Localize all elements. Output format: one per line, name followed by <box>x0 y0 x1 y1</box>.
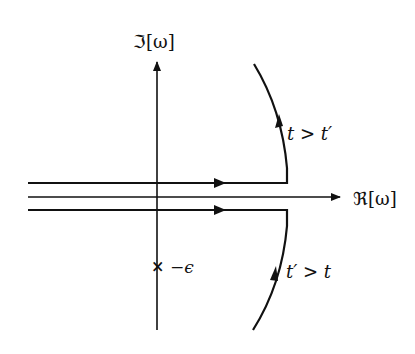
contour-diagram: × ℑ[ω] ℜ[ω] −ϵ t > t′ t′ > t <box>0 0 415 354</box>
imaginary-axis-label: ℑ[ω] <box>133 31 175 52</box>
lower-contour-label: t′ > t <box>286 261 332 282</box>
upper-contour-arrow-icon <box>214 178 226 188</box>
pole-label: −ϵ <box>170 257 194 277</box>
pole-marker-icon: × <box>151 257 164 276</box>
real-axis-label: ℜ[ω] <box>353 188 397 209</box>
lower-arc-arrow-icon <box>270 266 278 281</box>
upper-contour-label: t > t′ <box>287 123 332 144</box>
lower-contour-arrow-icon <box>214 205 226 215</box>
